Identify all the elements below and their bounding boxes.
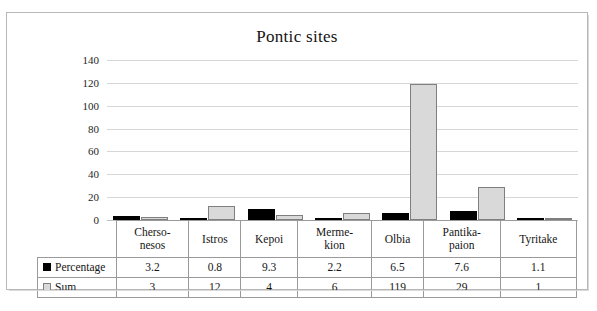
category-header-3: Merme-kion — [297, 221, 371, 258]
bar-percentage-4 — [382, 213, 409, 220]
bar-sum-5 — [478, 187, 505, 220]
table-row: Percentage3.20.89.32.26.57.61.1 — [38, 258, 577, 278]
bar-percentage-5 — [450, 211, 477, 220]
table-header-row: Cherso-nesosIstrosKepoiMerme-kionOlbiaPa… — [38, 221, 577, 258]
bar-percentage-2 — [248, 209, 275, 220]
value-sum-6: 1 — [500, 278, 576, 298]
legend-label: Percentage — [55, 261, 105, 273]
category-header-6: Tyritake — [500, 221, 576, 258]
value-sum-0: 3 — [116, 278, 189, 298]
y-tick-120: 120 — [63, 77, 99, 88]
y-tick-80: 80 — [63, 123, 99, 134]
value-percentage-5: 7.6 — [423, 258, 500, 278]
legend-label: Sum — [55, 281, 76, 293]
value-percentage-6: 1.1 — [500, 258, 576, 278]
y-tick-140: 140 — [63, 55, 99, 66]
y-tick-100: 100 — [63, 100, 99, 111]
legend-swatch-percentage-icon — [43, 263, 51, 271]
bar-sum-3 — [343, 213, 370, 220]
value-sum-5: 29 — [423, 278, 500, 298]
y-tick-20: 20 — [63, 192, 99, 203]
value-sum-4: 119 — [372, 278, 424, 298]
category-header-4: Olbia — [372, 221, 424, 258]
y-tick-40: 40 — [63, 169, 99, 180]
data-table: Cherso-nesosIstrosKepoiMerme-kionOlbiaPa… — [37, 220, 577, 298]
table-corner-cell — [38, 221, 117, 258]
page-caption — [60, 298, 540, 309]
table-row: Sum31246119291 — [38, 278, 577, 298]
value-percentage-0: 3.2 — [116, 258, 189, 278]
value-percentage-2: 9.3 — [241, 258, 298, 278]
legend-cell-sum: Sum — [38, 278, 117, 298]
bar-sum-1 — [208, 206, 235, 220]
category-header-2: Kepoi — [241, 221, 298, 258]
legend-swatch-sum-icon — [43, 283, 51, 291]
legend-cell-percentage: Percentage — [38, 258, 117, 278]
bar-sum-4 — [410, 84, 437, 220]
value-sum-1: 12 — [189, 278, 241, 298]
value-percentage-3: 2.2 — [297, 258, 371, 278]
value-percentage-4: 6.5 — [372, 258, 424, 278]
y-tick-60: 60 — [63, 146, 99, 157]
category-header-5: Pantika-paion — [423, 221, 500, 258]
chart-frame: Pontic sites 020406080100120140 Cherso-n… — [6, 12, 588, 290]
value-sum-3: 6 — [297, 278, 371, 298]
value-percentage-1: 0.8 — [189, 258, 241, 278]
category-header-0: Cherso-nesos — [116, 221, 189, 258]
category-header-1: Istros — [189, 221, 241, 258]
value-sum-2: 4 — [241, 278, 298, 298]
